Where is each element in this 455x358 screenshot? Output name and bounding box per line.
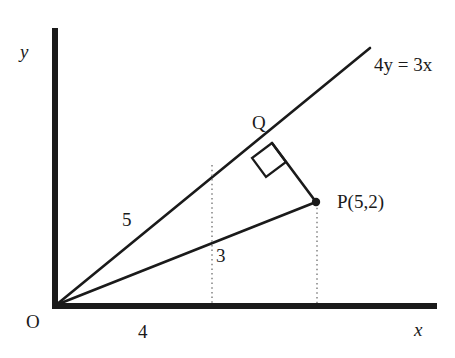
origin-label: O <box>26 312 40 331</box>
length-label-oq: 5 <box>122 210 132 229</box>
point-marker-p <box>312 198 320 206</box>
right-angle-marker <box>252 143 286 177</box>
point-p-label: P(5,2) <box>337 192 384 211</box>
line-4y-equals-3x <box>56 48 370 305</box>
segment-op <box>56 202 316 305</box>
y-axis-label: y <box>20 42 28 61</box>
point-q-label: Q <box>252 113 266 132</box>
length-label-op: 3 <box>216 246 226 265</box>
geometry-diagram: y x O 4y = 3x Q P(5,2) 5 3 4 <box>0 0 455 358</box>
x-axis-label: x <box>414 320 422 339</box>
x-tick-label-4: 4 <box>138 322 148 341</box>
line-equation-label: 4y = 3x <box>374 55 432 74</box>
